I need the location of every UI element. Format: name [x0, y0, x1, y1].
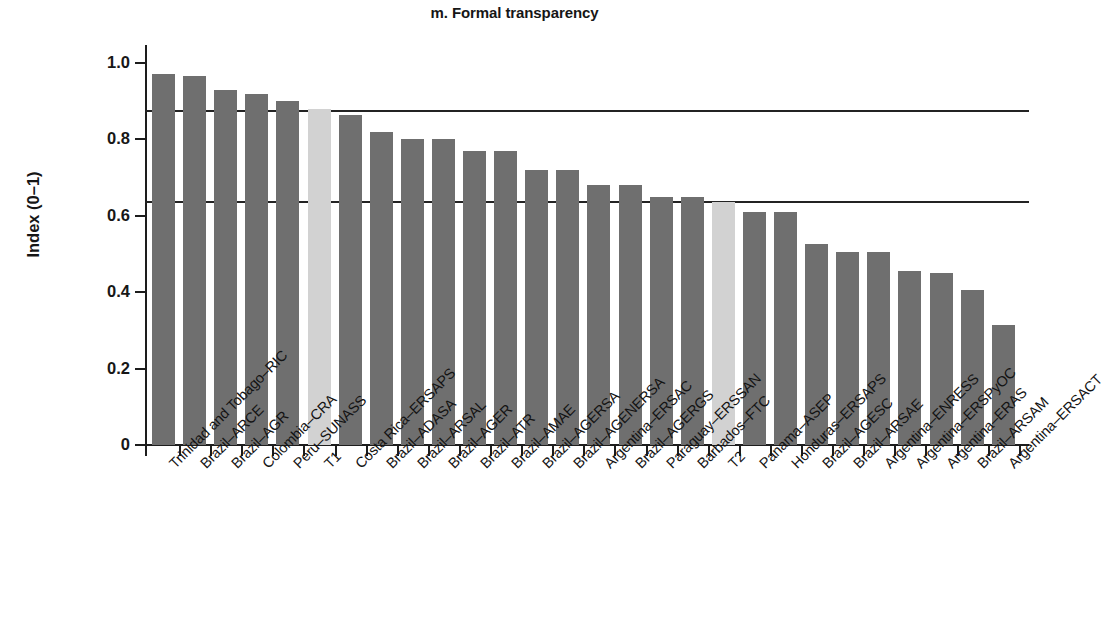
x-axis-tick-label: T2: [725, 448, 748, 471]
x-axis-tick-label: T1: [321, 448, 344, 471]
